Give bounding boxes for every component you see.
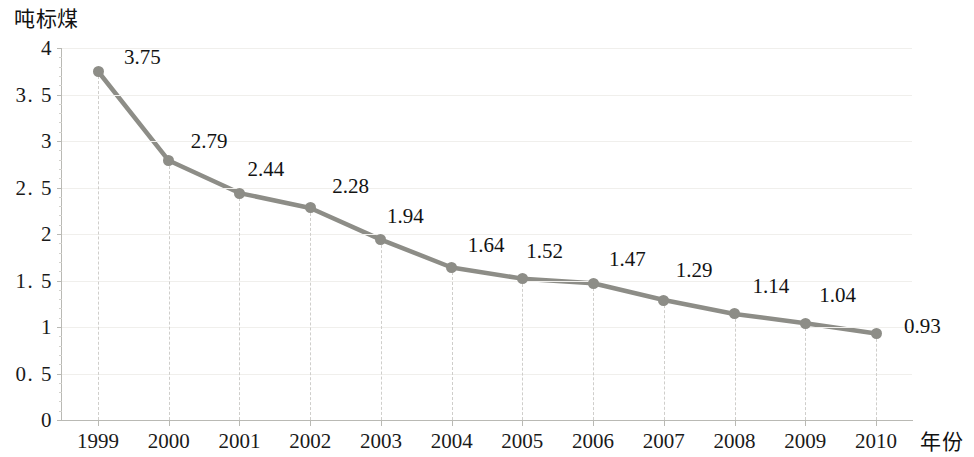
data-point-marker[interactable] [800,318,811,329]
y-tick-mark-minor [59,197,62,198]
y-tick-mark-minor [59,299,62,300]
dropline [593,283,594,420]
dropline [522,279,523,420]
x-tick-mark [805,421,806,426]
y-tick-mark-minor [59,206,62,207]
y-tick-mark-minor [59,150,62,151]
y-tick-mark-minor [59,160,62,161]
y-tick-mark-minor [59,411,62,412]
y-axis-title: 吨标煤 [14,6,79,32]
y-tick-label: 0 [41,410,53,431]
data-point-label: 1.47 [609,249,646,270]
x-tick-label: 2002 [270,429,350,453]
y-tick-mark [57,95,62,96]
y-tick-mark [57,420,62,421]
x-tick-label: 2000 [129,429,209,453]
y-tick-label: 2. 5 [16,178,54,199]
y-tick-mark-minor [59,253,62,254]
y-tick-mark-minor [59,318,62,319]
data-point-label: 2.28 [332,176,369,197]
data-point-label: 1.04 [819,285,856,306]
gridline [62,141,912,142]
y-tick-mark [57,141,62,142]
x-tick-label: 1999 [58,429,138,453]
y-tick-label: 3 [41,131,53,152]
x-tick-mark [169,421,170,426]
dropline [876,334,877,420]
gridline [62,48,912,49]
x-tick-mark [239,421,240,426]
y-tick-mark-minor [59,401,62,402]
y-tick-mark-minor [59,262,62,263]
y-tick-mark [57,48,62,49]
y-tick-mark [57,281,62,282]
gridline [62,374,912,375]
data-point-marker[interactable] [658,295,669,306]
y-tick-mark-minor [59,225,62,226]
y-tick-mark-minor [59,392,62,393]
y-tick-mark [57,374,62,375]
data-point-label: 1.14 [753,276,790,297]
y-tick-label: 0. 5 [16,364,54,385]
y-tick-mark-minor [59,178,62,179]
y-tick-mark-minor [59,169,62,170]
dropline [381,240,382,420]
x-tick-mark [664,421,665,426]
y-tick-label: 2 [41,224,53,245]
x-tick-mark [98,421,99,426]
dropline [169,161,170,420]
y-tick-mark [57,188,62,189]
data-point-label: 1.64 [468,235,505,256]
dropline [98,71,99,420]
x-axis-title: 年份 [920,430,963,454]
y-tick-mark [57,234,62,235]
y-tick-mark-minor [59,104,62,105]
dropline [664,300,665,420]
y-tick-mark-minor [59,67,62,68]
y-tick-mark-minor [59,346,62,347]
y-tick-mark-minor [59,336,62,337]
x-axis-line [62,420,913,421]
line-chart: 吨标煤 年份 43. 532. 521. 510. 50 19992000200… [0,0,974,457]
x-tick-mark [310,421,311,426]
data-point-marker[interactable] [517,273,528,284]
x-tick-label: 2007 [624,429,704,453]
y-tick-mark-minor [59,113,62,114]
x-tick-label: 2009 [765,429,845,453]
gridline [62,95,912,96]
y-tick-mark-minor [59,215,62,216]
data-point-marker[interactable] [588,278,599,289]
x-tick-label: 2005 [482,429,562,453]
x-tick-label: 2001 [199,429,279,453]
data-point-label: 1.94 [387,206,424,227]
data-point-marker[interactable] [234,188,245,199]
dropline [735,314,736,420]
x-tick-mark [522,421,523,426]
y-tick-mark-minor [59,85,62,86]
x-tick-label: 2006 [553,429,633,453]
y-tick-mark-minor [59,290,62,291]
dropline [310,208,311,420]
data-point-marker[interactable] [871,328,882,339]
x-tick-label: 2003 [341,429,421,453]
data-point-label: 3.75 [124,47,161,68]
dropline [239,193,240,420]
y-tick-mark-minor [59,308,62,309]
data-point-label: 1.52 [526,241,563,262]
y-tick-mark-minor [59,57,62,58]
data-point-label: 0.93 [904,316,941,337]
data-point-marker[interactable] [93,66,104,77]
y-tick-label: 4 [41,38,53,59]
gridline [62,327,912,328]
y-tick-mark-minor [59,76,62,77]
gridline [62,188,912,189]
x-tick-mark [452,421,453,426]
data-point-label: 1.29 [676,260,713,281]
data-point-label: 2.79 [191,131,228,152]
y-tick-mark-minor [59,271,62,272]
y-tick-mark-minor [59,132,62,133]
x-tick-mark [593,421,594,426]
x-tick-mark [381,421,382,426]
data-point-label: 2.44 [247,159,284,180]
y-tick-mark-minor [59,355,62,356]
